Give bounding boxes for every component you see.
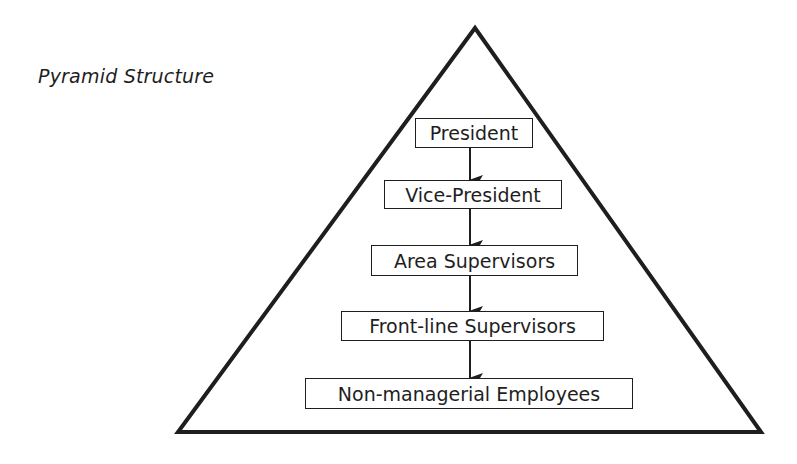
level-label: Area Supervisors bbox=[394, 250, 555, 272]
level-president: President bbox=[415, 118, 533, 148]
level-vice-president: Vice-President bbox=[384, 180, 562, 209]
level-front-line-supervisors: Front-line Supervisors bbox=[341, 311, 604, 341]
level-non-managerial-employees: Non-managerial Employees bbox=[305, 378, 633, 409]
level-area-supervisors: Area Supervisors bbox=[371, 245, 578, 276]
level-label: Vice-President bbox=[405, 184, 540, 206]
level-label: Front-line Supervisors bbox=[369, 315, 576, 337]
level-label: Non-managerial Employees bbox=[338, 383, 600, 405]
level-label: President bbox=[430, 122, 519, 144]
